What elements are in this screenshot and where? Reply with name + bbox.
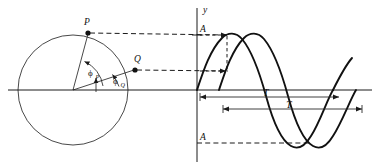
label-phi-q: ϕ: [113, 76, 118, 86]
point-q-dot: [132, 67, 137, 72]
label-period-upper: T: [263, 88, 269, 98]
label-point-p: P: [83, 17, 90, 27]
label-amplitude-lower: A: [199, 132, 206, 142]
label-point-q: Q: [134, 54, 141, 64]
label-y-axis: y: [202, 5, 208, 15]
label-phi-p: ϕ: [88, 68, 93, 78]
figure-root: P Q ϕ P ϕ Q y A A T T: [0, 0, 375, 168]
wave-curve-q: [219, 34, 356, 148]
wave-tail: [333, 58, 352, 90]
label-phi-q-subscript: Q: [121, 81, 126, 88]
label-amplitude-upper: A: [199, 24, 206, 34]
label-period-lower: T: [286, 100, 292, 110]
point-p-dot: [85, 30, 90, 35]
harmonic-motion-diagram: P Q ϕ P ϕ Q y A A T T: [0, 0, 375, 168]
label-phi-p-subscript: P: [95, 73, 100, 80]
